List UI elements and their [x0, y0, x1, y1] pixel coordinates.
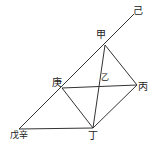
label-ji: 己: [133, 6, 143, 16]
label-jia: 甲: [96, 30, 106, 40]
line-wuxin-ding: [19, 128, 93, 129]
line-jia-bing: [105, 45, 137, 85]
line-bing-ding: [93, 85, 137, 128]
label-wuxin: 戊辛: [10, 131, 28, 140]
label-geng: 庚: [52, 78, 62, 88]
label-bing: 丙: [138, 82, 148, 92]
line-geng-ding: [62, 88, 93, 128]
label-yi: 乙: [101, 74, 109, 82]
label-ding: 丁: [88, 131, 98, 141]
line-wuxin-ji: [19, 14, 134, 129]
